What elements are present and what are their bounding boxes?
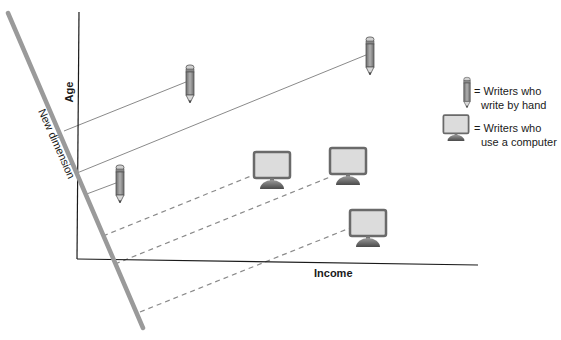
legend-monitor-line1: = Writers who xyxy=(474,122,541,135)
monitor-icon xyxy=(254,152,290,189)
y-axis xyxy=(77,12,79,259)
legend-pencil-icon xyxy=(464,77,470,107)
legend-pencil-line1: = Writers who xyxy=(474,85,541,98)
projection-line xyxy=(115,177,330,264)
projection-line xyxy=(84,183,116,195)
projection-line xyxy=(64,82,186,131)
legend-pencil-line2: write by hand xyxy=(481,99,546,112)
legend-monitor-icon xyxy=(443,115,468,141)
monitor-projections xyxy=(103,174,350,312)
x-axis-label: Income xyxy=(314,267,353,279)
projection-line xyxy=(103,174,256,236)
monitor-icon xyxy=(350,210,386,247)
projection-line xyxy=(77,55,366,173)
new-dimension-label: New dimension xyxy=(36,107,78,181)
legend-monitor-line2: use a computer xyxy=(481,136,557,149)
pencil-icon xyxy=(186,65,194,103)
pencil-projections xyxy=(64,55,366,195)
dimensionality-reduction-diagram: Age Income New dimension xyxy=(0,0,561,340)
monitor-icon xyxy=(330,148,366,185)
y-axis-label: Age xyxy=(63,82,75,103)
pencil-icon xyxy=(116,165,124,203)
pencil-icon xyxy=(366,37,374,75)
x-axis xyxy=(77,259,478,265)
